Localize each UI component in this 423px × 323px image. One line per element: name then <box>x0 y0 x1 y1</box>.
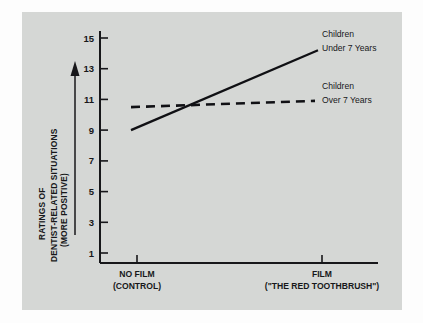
legend-label-children-over-7-line2: Over 7 Years <box>322 95 372 105</box>
y-tick-label-13: 13 <box>83 63 94 74</box>
figure-container: 1 3 5 7 9 11 13 15 NO FILM (CONTROL) FIL… <box>0 0 423 323</box>
x-category-label-no-film-line1: NO FILM <box>119 269 154 279</box>
legend-label-children-under-7-line2: Under 7 Years <box>322 43 376 53</box>
legend-label-children-under-7-line1: Children <box>322 29 354 39</box>
series-line-children-under-7 <box>131 50 318 130</box>
y-axis-arrow-head <box>71 61 80 76</box>
y-tick-label-15: 15 <box>83 33 94 44</box>
series-line-children-over-7 <box>131 101 315 107</box>
y-axis-label-line3: (MORE POSITIVE) <box>59 173 69 247</box>
y-tick-label-11: 11 <box>84 94 95 105</box>
x-category-label-no-film-line2: (CONTROL) <box>113 281 161 291</box>
x-category-label-film-line1: FILM <box>312 269 332 279</box>
y-tick-label-5: 5 <box>89 186 95 197</box>
chart-plot: 1 3 5 7 9 11 13 15 NO FILM (CONTROL) FIL… <box>0 0 423 323</box>
legend-label-children-over-7-line1: Children <box>322 81 354 91</box>
y-tick-label-9: 9 <box>89 125 94 136</box>
y-axis-label-line2: DENTIST-RELATED SITUATIONS <box>49 128 59 262</box>
y-tick-label-7: 7 <box>89 155 94 166</box>
x-category-label-film-line2: ("THE RED TOOTHBRUSH") <box>265 281 380 291</box>
y-tick-label-3: 3 <box>89 217 94 228</box>
y-axis-label-line1: RATINGS OF <box>37 187 47 240</box>
y-tick-label-1: 1 <box>89 248 95 259</box>
